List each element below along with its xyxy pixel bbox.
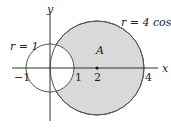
tick-two: 2 [94,71,101,84]
center-point [95,66,98,69]
inner-curve-label: r = 1 [10,40,38,53]
tick-one: 1 [75,71,82,84]
polar-diagram: y x −1 1 2 4 A r = 4 cos θ r = 1 [0,0,171,131]
tick-four: 4 [145,71,152,84]
tick-neg-one: −1 [14,71,30,84]
outer-curve-label: r = 4 cos θ [121,16,171,29]
region-label: A [95,44,104,57]
x-axis-label: x [162,62,169,75]
y-axis-label: y [46,3,54,16]
